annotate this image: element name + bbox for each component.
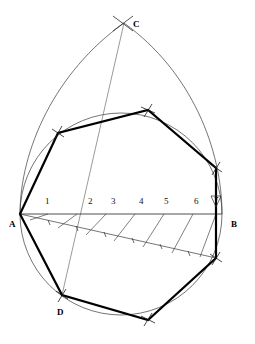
division-label-6: 6 xyxy=(194,197,199,206)
transfer-line-6 xyxy=(172,214,193,253)
division-label-2: 2 xyxy=(88,197,93,206)
inscribed-heptagon xyxy=(20,110,216,320)
arc-left-flank xyxy=(20,23,124,214)
division-label-7: 7 xyxy=(214,196,219,205)
division-label-3: 3 xyxy=(111,197,116,206)
division-tick-5 xyxy=(160,244,162,249)
division-label-4: 4 xyxy=(139,197,144,206)
transfer-lines xyxy=(30,214,216,257)
apex-to-vertex-construction-line xyxy=(62,23,124,295)
point-label-b: B xyxy=(231,220,237,229)
division-label-1: 1 xyxy=(45,197,50,206)
division-label-5: 5 xyxy=(164,197,169,206)
transfer-line-7 xyxy=(200,214,216,257)
point-label-c: C xyxy=(133,20,140,29)
transfer-line-4 xyxy=(114,214,135,241)
apex-cross-arcs xyxy=(113,16,133,31)
ogive-arcs xyxy=(20,23,222,214)
construction-drawing xyxy=(0,0,255,344)
arc-right-flank xyxy=(124,23,222,214)
transfer-line-5 xyxy=(143,214,164,247)
division-tick-4 xyxy=(132,238,134,243)
point-label-a: A xyxy=(9,220,16,229)
transfer-line-3 xyxy=(86,214,106,235)
vertex-tick-marks xyxy=(52,104,222,326)
geometric-construction-figure: A B C D 1 2 3 4 5 6 7 xyxy=(0,0,255,344)
point-label-d: D xyxy=(57,308,64,317)
